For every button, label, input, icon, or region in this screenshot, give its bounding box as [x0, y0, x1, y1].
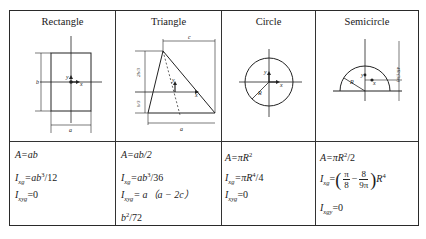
semi-label-y: y	[360, 72, 364, 78]
circle-figure	[239, 49, 302, 117]
semi-label-x: x	[372, 80, 376, 86]
rect-label-a: a	[69, 127, 72, 133]
rect-label-b: b	[36, 79, 39, 85]
tri-label-y: y	[171, 77, 175, 83]
rect-label-y: y	[65, 74, 69, 80]
section-properties-table: Rectangle Triangle Circle Semicircle	[9, 10, 419, 226]
figures-svg: b a y x c a y x 2b/3 b/3 R y x R y x 4R/…	[10, 11, 418, 141]
rect-label-x: x	[79, 81, 83, 87]
circle-label-R: R	[257, 90, 262, 96]
tri-label-x: x	[194, 92, 198, 98]
circle-label-x: x	[279, 82, 283, 88]
tri-label-a: a	[180, 126, 183, 132]
semicircle-figure	[333, 39, 402, 101]
tri-label-2b3: 2b/3	[136, 68, 141, 77]
rectangle-figure	[35, 36, 102, 133]
tri-label-b3: b/3	[136, 100, 141, 107]
semi-label-4r3pi: 4R/(3π)	[396, 67, 401, 83]
circle-label-y: y	[263, 69, 267, 75]
tri-label-c: c	[188, 34, 191, 40]
semi-label-R: R	[349, 79, 354, 85]
row-divider	[10, 141, 418, 142]
